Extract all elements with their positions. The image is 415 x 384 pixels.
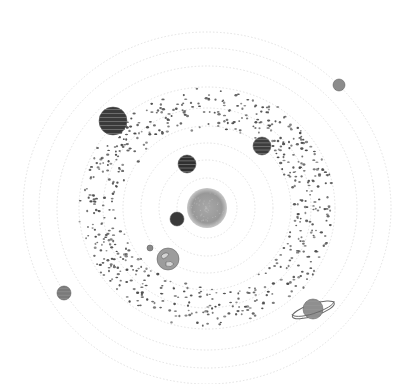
asteroid	[181, 104, 183, 106]
asteroid	[123, 234, 125, 235]
asteroid	[298, 238, 300, 240]
asteroid	[138, 122, 141, 124]
asteroid	[294, 285, 297, 287]
asteroid	[300, 130, 302, 132]
asteroid	[97, 210, 99, 211]
asteroid	[297, 127, 300, 129]
asteroid	[313, 151, 316, 153]
asteroid	[188, 314, 191, 316]
asteroid	[294, 176, 297, 178]
asteroid	[191, 106, 194, 108]
asteroid	[126, 143, 129, 145]
asteroid	[283, 247, 286, 249]
asteroid	[184, 283, 187, 285]
asteroid	[287, 161, 290, 163]
asteroid	[289, 281, 292, 284]
asteroid	[94, 229, 96, 231]
asteroid	[279, 121, 281, 124]
asteroid	[269, 125, 271, 127]
asteroid	[186, 115, 189, 118]
asteroid	[161, 285, 163, 287]
asteroid	[133, 133, 136, 135]
asteroid	[299, 132, 302, 135]
asteroid	[239, 290, 241, 291]
asteroid	[148, 133, 151, 136]
asteroid	[102, 170, 104, 172]
asteroid	[287, 243, 289, 245]
asteroid	[272, 302, 275, 304]
asteroid	[109, 163, 112, 165]
asteroid	[326, 196, 328, 199]
asteroid	[306, 278, 308, 280]
asteroid	[249, 317, 252, 319]
asteroid	[115, 159, 117, 161]
asteroid	[303, 170, 306, 172]
asteroid	[90, 166, 93, 168]
asteroid	[93, 212, 95, 214]
asteroid	[324, 171, 327, 173]
asteroid	[93, 176, 95, 178]
asteroid	[135, 270, 137, 272]
asteroid	[143, 144, 145, 146]
asteroid	[293, 203, 296, 205]
asteroid	[170, 321, 173, 323]
asteroid	[108, 160, 110, 162]
asteroid	[115, 185, 117, 187]
asteroid	[145, 267, 147, 269]
asteroid	[114, 217, 116, 219]
asteroid	[125, 134, 128, 135]
asteroid	[122, 258, 124, 260]
asteroid	[240, 103, 242, 105]
asteroid	[301, 142, 304, 144]
asteroid	[172, 109, 175, 111]
asteroid	[161, 99, 164, 101]
asteroid	[274, 150, 277, 152]
asteroid	[248, 287, 250, 288]
asteroid	[266, 127, 269, 129]
asteroid	[234, 94, 237, 97]
asteroid	[196, 322, 199, 325]
asteroid	[160, 111, 163, 113]
asteroid	[326, 174, 329, 176]
asteroid	[312, 209, 314, 210]
asteroid	[297, 203, 299, 206]
asteroid	[188, 301, 190, 303]
asteroid	[299, 166, 302, 168]
asteroid	[161, 300, 164, 302]
solar-system-illustration	[0, 0, 415, 384]
asteroid	[297, 213, 300, 215]
asteroid	[323, 208, 326, 210]
asteroid	[252, 126, 254, 128]
asteroid	[137, 160, 140, 162]
asteroid	[114, 244, 117, 246]
asteroid	[96, 263, 98, 265]
asteroid	[184, 315, 187, 317]
asteroid	[96, 147, 99, 149]
asteroid	[288, 295, 291, 297]
asteroid	[159, 307, 162, 309]
asteroid	[93, 201, 95, 203]
asteroid	[298, 181, 301, 183]
asteroid	[299, 221, 301, 223]
asteroid	[129, 300, 131, 303]
asteroid	[296, 216, 298, 219]
asteroid	[111, 198, 114, 200]
asteroid	[290, 290, 293, 292]
asteroid	[315, 208, 317, 210]
asteroid	[89, 200, 92, 202]
asteroid	[309, 267, 312, 269]
asteroid	[255, 113, 257, 115]
asteroid	[150, 103, 153, 105]
asteroid	[164, 280, 167, 282]
asteroid	[109, 238, 112, 240]
asteroid	[136, 300, 139, 302]
asteroid	[174, 310, 177, 311]
asteroid	[177, 296, 179, 298]
asteroid	[101, 244, 103, 246]
asteroid	[321, 169, 324, 171]
asteroid	[107, 145, 109, 147]
asteroid	[254, 127, 256, 128]
asteroid	[187, 305, 189, 307]
asteroid	[108, 230, 111, 232]
asteroid	[279, 254, 282, 256]
